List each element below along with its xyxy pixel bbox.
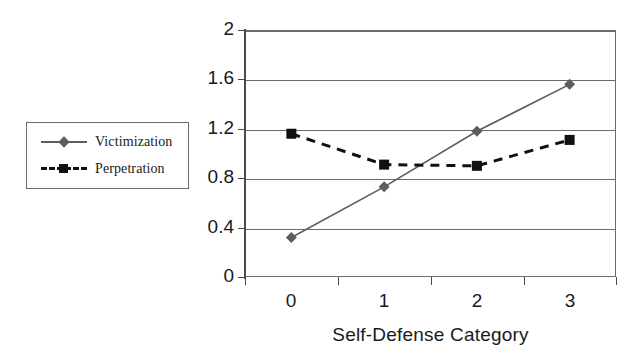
y-axis-line [244, 29, 246, 279]
y-axis-tick [238, 30, 245, 31]
x-axis-tick [431, 277, 432, 285]
plot-area [245, 30, 616, 277]
y-axis-label-1p2: 1.2 [186, 118, 234, 137]
legend-item-perpetration: Perpetration [27, 158, 188, 180]
y-axis-label-0p8: 0.8 [186, 167, 234, 186]
y-axis-tick [238, 129, 245, 130]
y-axis-label-2: 2 [186, 19, 234, 38]
gridline [246, 80, 615, 81]
y-axis-label-0p4: 0.4 [186, 217, 234, 236]
y-axis-tick [238, 277, 245, 278]
y-axis-tick [238, 79, 245, 80]
y-axis-tick [238, 178, 245, 179]
y-axis-tick [238, 228, 245, 229]
x-axis-tick [616, 277, 617, 285]
legend-sample-perpetration [41, 161, 87, 177]
x-axis-label-2: 2 [457, 291, 497, 310]
square-marker-icon [59, 164, 68, 173]
gridline [246, 229, 615, 230]
legend-label-perpetration: Perpetration [95, 161, 165, 177]
line-chart: Victimization Perpetration 2 1.6 1.2 0.8… [0, 0, 634, 362]
x-axis-label-0: 0 [271, 291, 311, 310]
gridline [246, 130, 615, 131]
x-axis-tick [338, 277, 339, 285]
y-axis-label-1p6: 1.6 [186, 68, 234, 87]
legend-item-victimization: Victimization [27, 131, 188, 153]
x-axis-label-3: 3 [550, 291, 590, 310]
chart-legend: Victimization Perpetration [26, 122, 189, 189]
x-axis-title: Self-Defense Category [245, 324, 616, 346]
x-axis-tick [524, 277, 525, 285]
y-axis-label-0: 0 [186, 266, 234, 285]
gridline [246, 31, 615, 32]
legend-sample-victimization [41, 134, 87, 150]
gridline [246, 179, 615, 180]
legend-label-victimization: Victimization [95, 134, 172, 150]
diamond-marker-icon [58, 136, 69, 147]
x-axis-label-1: 1 [364, 291, 404, 310]
x-axis-tick [245, 277, 246, 285]
